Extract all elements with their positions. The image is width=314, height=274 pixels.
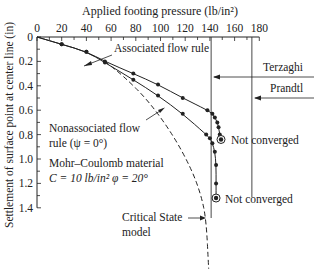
y-tick-label: 0.2	[19, 55, 34, 67]
data-point	[217, 125, 221, 129]
data-point	[214, 163, 218, 167]
x-tick-label: 100	[152, 22, 170, 34]
material-label-line2: C = 10 lb/in² φ = 20°	[49, 172, 148, 185]
x-tick-label: 120	[177, 22, 195, 34]
data-point	[156, 94, 160, 98]
data-point	[205, 108, 209, 112]
terzaghi-label: Terzaghi	[263, 61, 303, 74]
nonassociated-label-line1: Nonassociated flow	[49, 122, 141, 134]
nonassociated-label-line2: rule (ψ = 0°)	[49, 137, 107, 150]
prandtl-arrowhead-icon	[254, 96, 261, 101]
x-tick-label: 60	[105, 22, 117, 34]
not-converged-label-1: Not converged	[231, 134, 299, 147]
x-tick-label: 160	[226, 22, 244, 34]
x-axis-title: Applied footing pressure (lb/in²)	[82, 4, 238, 18]
data-point	[131, 72, 135, 76]
data-point	[156, 83, 160, 87]
data-point	[214, 181, 218, 185]
data-point	[210, 112, 214, 116]
terzaghi-arrowhead-icon	[213, 75, 220, 80]
y-tick-label: 0.4	[19, 80, 34, 92]
x-tick-label: 180	[251, 22, 269, 34]
x-tick-label: 40	[81, 22, 93, 34]
x-tick-label: 20	[56, 22, 68, 34]
data-point	[213, 150, 217, 154]
data-point	[181, 96, 185, 100]
y-tick-label: 1.0	[19, 153, 34, 165]
prandtl-label: Prandtl	[270, 82, 303, 94]
associated-flow-label: Associated flow rule	[114, 42, 209, 54]
data-point	[60, 42, 64, 46]
associated-arrowhead-icon	[84, 61, 92, 66]
not-converged-marker-dot	[219, 137, 223, 141]
data-point	[215, 120, 219, 124]
data-point	[213, 116, 217, 120]
data-point	[204, 133, 208, 137]
not-converged-label-2: Not converged	[225, 193, 293, 206]
data-point	[208, 136, 212, 140]
y-tick-label: 0	[27, 31, 33, 43]
nonassociated-arrowhead-icon	[158, 108, 165, 114]
y-tick-label: 0.6	[19, 104, 34, 116]
material-label-line1: Mohr–Coulomb material	[49, 157, 164, 169]
y-tick-label: 0.8	[19, 129, 34, 141]
y-tick-label: 1.2	[19, 177, 34, 189]
x-tick-label: 140	[201, 22, 219, 34]
x-tick-label: 0	[34, 22, 40, 34]
critical-state-label-line2: model	[122, 226, 151, 238]
critical-state-label-line1: Critical State	[122, 211, 182, 223]
x-tick-label: 80	[130, 22, 142, 34]
y-axis-title: Settlement of surface point at center li…	[3, 22, 16, 228]
y-tick-label: 1.4	[19, 202, 34, 214]
data-point	[181, 112, 185, 116]
data-point	[210, 141, 214, 145]
not-converged-marker-dot	[214, 196, 218, 200]
settlement-chart: Applied footing pressure (lb/in²) Settle…	[0, 0, 314, 274]
data-point	[131, 78, 135, 82]
data-point	[84, 50, 88, 54]
